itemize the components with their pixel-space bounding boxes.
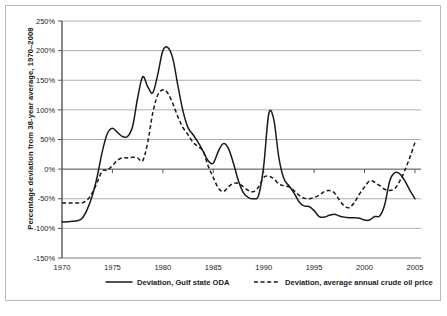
data-series-group: [62, 47, 415, 222]
x-tick-label: 1975: [104, 263, 121, 272]
y-tick-label: 250%: [36, 17, 55, 26]
x-tick-label: 2005: [406, 263, 423, 272]
x-tick-labels-group: 19701975198019851990199520002005: [54, 263, 424, 272]
chart-figure: Percentage deviation from 38-year averag…: [0, 0, 447, 316]
chart-frame: Percentage deviation from 38-year averag…: [5, 5, 441, 301]
gridlines-group: [62, 21, 421, 258]
y-tick-label: 0%: [44, 165, 55, 174]
series-line-gulf-state-oda: [62, 47, 415, 222]
legend-label: Deviation, Gulf state ODA: [137, 278, 230, 287]
x-tick-label: 1985: [205, 263, 222, 272]
y-tick-label: -150%: [34, 254, 56, 263]
y-tick-label: 100%: [36, 106, 55, 115]
legend-label: Deviation, average annual crude oil pric…: [285, 278, 433, 287]
x-tick-label: 1980: [154, 263, 171, 272]
y-tick-labels-group: 250%200%150%100%50%0%-50%-100%-150%: [34, 17, 56, 263]
y-tick-label: -100%: [34, 224, 56, 233]
x-tick-label: 1990: [255, 263, 272, 272]
chart-plot-area: 250%200%150%100%50%0%-50%-100%-150% 1970…: [6, 6, 442, 302]
y-tick-label: -50%: [38, 194, 56, 203]
chart-legend: Deviation, Gulf state ODADeviation, aver…: [106, 278, 433, 287]
series-line-crude-oil-price: [62, 90, 415, 208]
y-tick-label: 150%: [36, 76, 55, 85]
x-tick-label: 2000: [356, 263, 373, 272]
x-tick-label: 1995: [306, 263, 323, 272]
y-tick-label: 200%: [36, 46, 55, 55]
y-tick-label: 50%: [40, 135, 55, 144]
x-tick-label: 1970: [54, 263, 71, 272]
